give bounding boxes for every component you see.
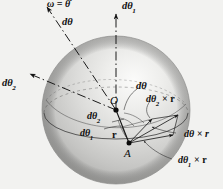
d-theta-1-center-text: dθ	[80, 127, 90, 138]
d-theta-2-cross-r-tail: × r	[160, 93, 175, 104]
d-theta-2-left-label: dθ2	[2, 78, 16, 91]
d-theta-2-cross-r-sub: 2	[156, 100, 159, 107]
d-theta-2-center-text: dθ	[87, 110, 97, 121]
d-theta-1-cross-r-label: dθ1 × r	[178, 155, 207, 168]
d-theta-center-label: dθ	[136, 81, 147, 92]
d-theta-top-label: dθ	[62, 17, 73, 28]
point-A-label: A	[124, 147, 131, 159]
d-theta-1-cross-r-tail: × r	[192, 154, 207, 165]
d-theta-1-top-label: dθ1	[122, 1, 136, 14]
point-O-label: O	[110, 94, 118, 106]
d-theta-1-top-sub: 1	[132, 7, 136, 15]
d-theta-2-cross-r-text: dθ	[146, 93, 156, 104]
d-theta-cross-r-label: dθ × r	[184, 129, 209, 139]
r-vector-label: r	[112, 130, 117, 141]
point-A-marker	[127, 141, 132, 146]
d-theta-1-center-label: dθ1	[80, 128, 94, 141]
omega-label: ω = θ̇	[47, 0, 70, 9]
d-theta-1-cross-r-text: dθ	[178, 154, 188, 165]
d-theta-2-left-sub: 2	[12, 84, 16, 92]
d-theta-1-center-sub: 1	[90, 134, 93, 141]
d-theta-2-center-sub: 2	[97, 117, 100, 124]
d-theta-2-cross-r-label: dθ2 × r	[146, 94, 175, 107]
d-theta-2-center-label: dθ2	[87, 111, 101, 124]
d-theta-1-cross-r-sub: 1	[188, 161, 191, 168]
